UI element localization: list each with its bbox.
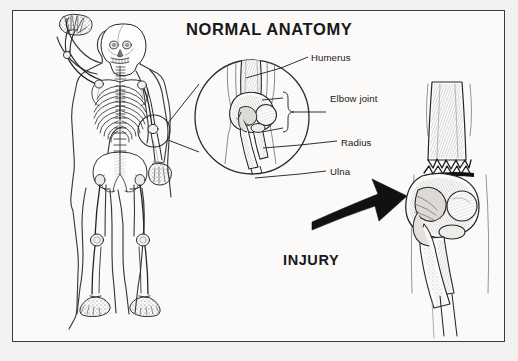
label-elbow-joint: Elbow joint xyxy=(330,93,378,104)
full-body-skeleton xyxy=(57,14,172,329)
injury-caption: INJURY xyxy=(283,252,339,268)
label-humerus: Humerus xyxy=(311,52,351,63)
illustration-artwork xyxy=(0,0,518,361)
medical-illustration-figure: NORMAL ANATOMY INJURY Humerus Elbow join… xyxy=(0,0,518,361)
fractured-elbow-illustration xyxy=(406,82,489,338)
page-title: NORMAL ANATOMY xyxy=(186,20,352,39)
skull xyxy=(101,24,146,76)
spine xyxy=(114,82,126,154)
label-radius: Radius xyxy=(341,137,371,148)
magnifier-connector-lines xyxy=(168,84,199,152)
legs xyxy=(80,185,160,317)
pelvis xyxy=(93,152,147,192)
injury-arrow xyxy=(312,179,407,230)
label-ulna: Ulna xyxy=(330,166,350,177)
